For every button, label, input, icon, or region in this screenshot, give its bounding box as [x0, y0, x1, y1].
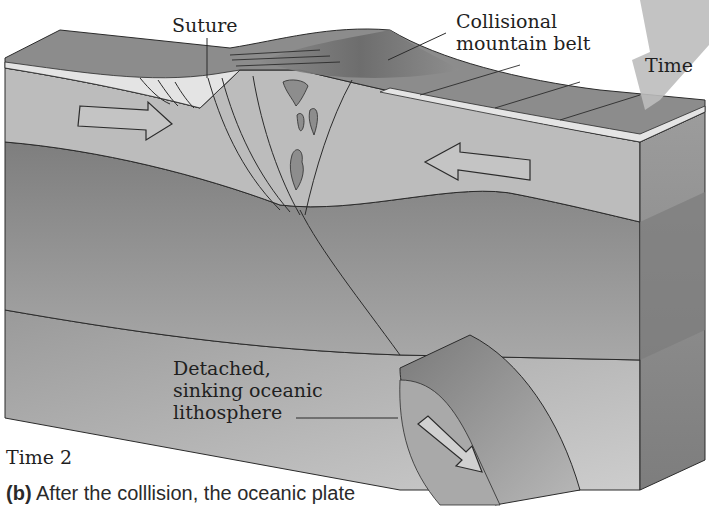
continental-collision-block-diagram [0, 0, 709, 510]
caption-text: After the colllision, the oceanic plate [36, 482, 355, 504]
label-time-stage: Time 2 [6, 446, 72, 468]
caption-panel-tag: (b) [6, 482, 32, 504]
label-detached-lithosphere: Detached, sinking oceanic lithosphere [173, 357, 323, 423]
label-collisional-mountain-belt: Collisional mountain belt [456, 10, 590, 54]
label-time-arrow: Time [645, 54, 693, 76]
label-suture: Suture [172, 14, 237, 36]
figure-caption: (b) After the colllision, the oceanic pl… [6, 482, 355, 505]
